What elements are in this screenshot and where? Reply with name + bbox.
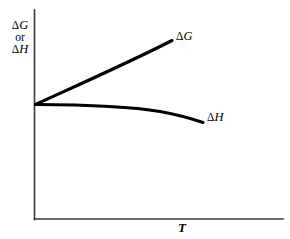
- series-label-delta-g: ΔG: [176, 30, 192, 43]
- x-axis-label: T: [178, 221, 186, 234]
- y-axis-label-line-1: ΔG: [8, 19, 32, 32]
- y-axis-label-line-3: ΔH: [8, 43, 32, 56]
- figure-container: ΔG or ΔH T ΔG ΔH: [0, 0, 290, 239]
- series-label-delta-h: ΔH: [207, 111, 223, 124]
- plot-canvas: [0, 0, 290, 239]
- y-axis-label: ΔG or ΔH: [8, 19, 32, 56]
- curve-delta-g: [36, 41, 173, 105]
- curve-delta-h: [36, 105, 204, 123]
